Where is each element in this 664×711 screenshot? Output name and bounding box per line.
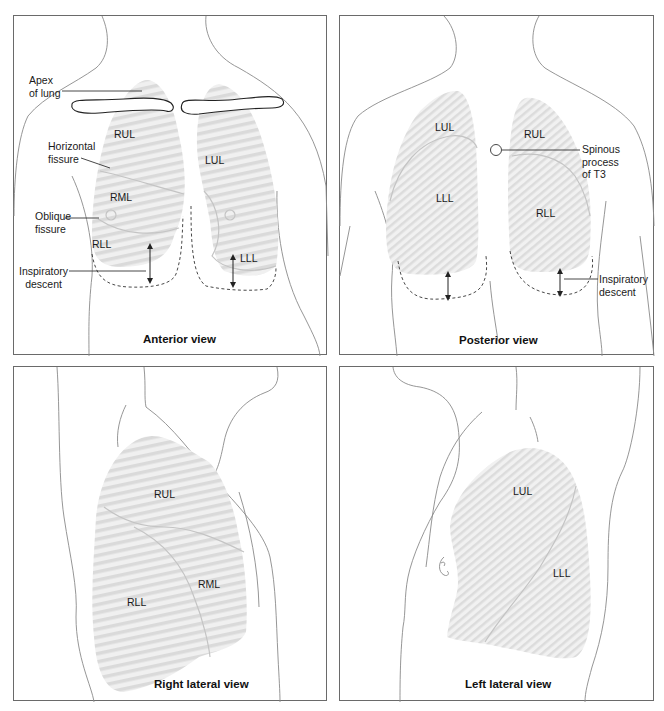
arm-outer-right bbox=[326, 186, 328, 256]
lobe-lul: LUL bbox=[205, 154, 224, 166]
spine-line bbox=[490, 281, 498, 341]
right-lateral-view-panel: RUL RML RLL Right lateral view bbox=[13, 366, 327, 701]
anterior-view-panel: Apex of lung Horizontal fissure Oblique … bbox=[13, 15, 327, 355]
left-lung-lateral bbox=[447, 448, 591, 658]
horizontal-fissure-label-line1: Horizontal bbox=[48, 140, 95, 153]
posterior-view-panel: Spinous process of T3 Inspiratory descen… bbox=[339, 15, 654, 355]
panel-title-posterior: Posterior view bbox=[459, 334, 538, 346]
inspiratory-descent-label: Inspiratory descent bbox=[19, 265, 68, 290]
apex-label-line1: Apex bbox=[29, 74, 61, 87]
inspiratory-descent-label-line1: Inspiratory bbox=[599, 273, 648, 286]
lobe-rll: RLL bbox=[536, 207, 555, 219]
spinous-process-label-line2: process bbox=[582, 156, 620, 169]
panel-title-anterior: Anterior view bbox=[143, 333, 216, 345]
shoulder-line bbox=[530, 417, 538, 442]
oblique-fissure-label-line1: Oblique bbox=[35, 210, 71, 223]
spinous-process-label-line1: Spinous bbox=[582, 143, 620, 156]
neck-front-outline bbox=[393, 367, 459, 702]
nipple-outline bbox=[440, 557, 449, 576]
inspiratory-descent-label-line2: descent bbox=[19, 278, 68, 291]
neck-back-outline bbox=[516, 367, 517, 410]
neck-front-outline bbox=[214, 367, 278, 475]
left-lung-posterior bbox=[386, 91, 478, 275]
lobe-lul: LUL bbox=[513, 485, 532, 497]
lobe-rul: RUL bbox=[524, 128, 545, 140]
lobe-rll: RLL bbox=[92, 238, 111, 250]
anterior-view-drawing bbox=[14, 16, 328, 356]
neck-outline-left bbox=[14, 16, 107, 216]
oblique-fissure-label-line2: fissure bbox=[35, 223, 71, 236]
apex-label: Apex of lung bbox=[29, 74, 61, 99]
lobe-rml: RML bbox=[198, 578, 220, 590]
spinous-process-t3-marker bbox=[491, 145, 502, 156]
right-lung-posterior bbox=[508, 98, 591, 272]
arm-outline-left bbox=[72, 176, 92, 356]
back-outline bbox=[585, 367, 640, 702]
back-outline bbox=[57, 367, 94, 702]
lobe-rul: RUL bbox=[154, 488, 175, 500]
lobe-rul: RUL bbox=[114, 128, 135, 140]
right-lung-lateral bbox=[92, 436, 246, 692]
right-lateral-view-drawing bbox=[14, 367, 328, 702]
inspiratory-descent-label: Inspiratory descent bbox=[599, 273, 648, 298]
inspiratory-descent-label-line2: descent bbox=[599, 286, 648, 299]
posterior-view-drawing bbox=[340, 16, 655, 356]
left-lateral-view-panel: LUL LLL Left lateral view bbox=[339, 366, 654, 701]
lobe-lll: LLL bbox=[553, 567, 571, 579]
lobe-lul: LUL bbox=[435, 121, 454, 133]
spinous-process-label-line3: of T3 bbox=[582, 168, 620, 181]
arm-outline-right bbox=[277, 191, 320, 356]
apex-label-line2: of lung bbox=[29, 87, 61, 100]
panel-title-left-lateral: Left lateral view bbox=[465, 678, 551, 690]
horizontal-fissure-label: Horizontal fissure bbox=[48, 140, 95, 165]
panel-title-right-lateral: Right lateral view bbox=[154, 678, 249, 690]
arm-outer-left bbox=[340, 226, 350, 276]
lobe-rll: RLL bbox=[127, 596, 146, 608]
lobe-rml: RML bbox=[110, 191, 132, 203]
shoulder-outline bbox=[117, 405, 126, 447]
lobe-lll: LLL bbox=[436, 192, 454, 204]
oblique-fissure-label: Oblique fissure bbox=[35, 210, 71, 235]
horizontal-fissure-label-line2: fissure bbox=[48, 153, 95, 166]
lobe-lll: LLL bbox=[240, 252, 258, 264]
inspiratory-descent-label-line1: Inspiratory bbox=[19, 265, 68, 278]
spinous-process-label: Spinous process of T3 bbox=[582, 143, 620, 181]
left-lateral-view-drawing bbox=[340, 367, 655, 702]
